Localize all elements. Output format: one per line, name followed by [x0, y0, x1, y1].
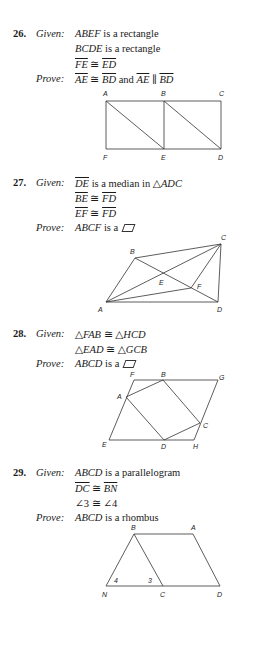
- given-label: Given:: [36, 328, 65, 339]
- segment-name: DE: [75, 178, 89, 189]
- segment-name: BE: [75, 193, 88, 204]
- given-statement: BCDE is a rectangle: [75, 43, 160, 54]
- segment-BC: [163, 380, 200, 423]
- vertex-label: B: [131, 524, 136, 531]
- text-fragment: EAD: [83, 344, 103, 355]
- vertex-label: D: [217, 306, 222, 313]
- prove-label: Prove:: [36, 73, 64, 84]
- vertex-label: A: [102, 90, 108, 97]
- vertex-label: H: [193, 443, 199, 450]
- text-fragment: ≅: [90, 483, 104, 494]
- vertex-label: E: [102, 441, 107, 448]
- prove-statement: ABCD is a rhombus: [75, 512, 159, 523]
- text-fragment: is a rectangle: [102, 43, 160, 54]
- figure-28: FBGACEDH: [102, 371, 225, 450]
- segment-AF: [106, 288, 191, 302]
- segment-name: ED: [102, 59, 116, 70]
- given-statement: ABCD is a parallelogram: [75, 467, 180, 478]
- segment-name: BD: [102, 74, 116, 85]
- segment-DA: [126, 397, 164, 440]
- segment-name: FD: [102, 208, 116, 219]
- prove-label: Prove:: [36, 512, 64, 523]
- vertex-label: B: [130, 248, 135, 255]
- text-fragment: BCDE: [75, 43, 102, 54]
- vertex-label: B: [161, 371, 166, 378]
- text-fragment: is a parallelogram: [102, 467, 180, 478]
- parallelogram-symbol-icon: [123, 360, 137, 368]
- figure-27: BCEFAD: [97, 234, 227, 313]
- segment-name: FD: [102, 193, 116, 204]
- segment-name: EF: [75, 208, 88, 219]
- text-fragment: is a rectangle: [101, 28, 159, 39]
- prove-statement: ABCD is a: [75, 358, 135, 369]
- problem-number: 26.: [13, 28, 26, 39]
- segment-BD: [164, 101, 221, 149]
- figure-26: ABCFED: [102, 90, 225, 161]
- given-statement: DC ≅ BN: [75, 482, 117, 494]
- vertex-label: F: [103, 154, 108, 161]
- segment-AD: [193, 534, 220, 586]
- prove-statement: AE ≅ BD and AE ∥ BD: [75, 73, 173, 85]
- segment-AB: [106, 258, 135, 302]
- segment-AB: [126, 380, 163, 397]
- vertex-label: E: [161, 154, 166, 161]
- segment-name: DC: [75, 483, 90, 494]
- text-fragment: ABCD: [75, 512, 102, 523]
- segment-GH: [194, 380, 218, 440]
- prove-label: Prove:: [36, 222, 64, 233]
- given-statement: EF ≅ FD: [75, 207, 116, 219]
- vertex-label: C: [203, 422, 209, 429]
- segment-AE: [106, 101, 164, 149]
- vertex-label: A: [116, 393, 122, 400]
- given-statement: ABEF is a rectangle: [75, 28, 159, 39]
- text-fragment: ABCD: [75, 358, 102, 369]
- text-fragment: △: [75, 329, 83, 340]
- text-fragment: is a: [101, 222, 121, 233]
- text-fragment: ABCD: [75, 467, 102, 478]
- given-statement: ∠3 ≅ ∠4: [75, 497, 117, 509]
- text-fragment: △: [75, 344, 83, 355]
- text-fragment: ABEF: [75, 28, 101, 39]
- vertex-label: A: [97, 306, 103, 313]
- vertex-label: 3: [148, 577, 152, 584]
- segment-BC: [135, 244, 221, 258]
- prove-label: Prove:: [36, 358, 64, 369]
- text-fragment: is a rhombus: [102, 512, 158, 523]
- given-statement: △EAD ≅ △GCB: [75, 343, 147, 355]
- given-label: Given:: [36, 467, 65, 478]
- text-fragment: HCD: [123, 329, 145, 340]
- text-fragment: ≅: [88, 193, 102, 204]
- given-statement: BE ≅ FD: [75, 192, 116, 204]
- segment-name: FE: [75, 59, 88, 70]
- prove-statement: ABCF is a: [75, 222, 134, 233]
- text-fragment: ≅: [88, 74, 102, 85]
- text-fragment: FAB: [83, 329, 101, 340]
- vertex-label: C: [221, 234, 227, 241]
- text-fragment: ≅: [88, 208, 102, 219]
- given-statement: DE is a median in △ADC: [75, 177, 182, 189]
- segment-name: BN: [104, 483, 117, 494]
- problem-number: 28.: [13, 328, 26, 339]
- vertex-label: F: [197, 283, 202, 290]
- segment-FE: [109, 380, 134, 440]
- vertex-label: G: [219, 374, 225, 381]
- text-fragment: GCB: [126, 344, 147, 355]
- vertex-label: 4: [114, 577, 118, 584]
- text-fragment: ABCF: [75, 222, 101, 233]
- vertex-label: B: [161, 90, 166, 97]
- parallelogram-symbol-icon: [121, 224, 135, 232]
- text-fragment: ∠3 ≅ ∠4: [75, 498, 117, 509]
- vertex-label: D: [218, 154, 223, 161]
- problem-number: 29.: [13, 467, 26, 478]
- given-statement: △FAB ≅ △HCD: [75, 328, 145, 340]
- vertex-label: A: [190, 524, 196, 531]
- vertex-label: C: [219, 90, 225, 97]
- segment-name: BD: [159, 74, 173, 85]
- problem-number: 27.: [13, 177, 26, 188]
- text-fragment: is a median in △: [89, 178, 161, 189]
- figure-29: BANCD43: [102, 524, 222, 598]
- vertex-label: C: [160, 591, 166, 598]
- vertex-label: E: [159, 279, 164, 286]
- text-fragment: ≅ △: [104, 344, 126, 355]
- text-fragment: is a: [102, 358, 122, 369]
